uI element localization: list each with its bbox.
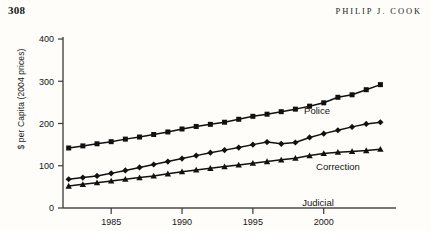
x-tick-label: 1990 bbox=[172, 217, 192, 227]
marker-diamond bbox=[278, 141, 284, 147]
marker-square bbox=[165, 129, 170, 134]
marker-diamond bbox=[122, 167, 128, 173]
marker-diamond bbox=[221, 147, 227, 153]
marker-square bbox=[378, 82, 383, 87]
marker-square bbox=[95, 141, 100, 146]
marker-diamond bbox=[321, 131, 327, 137]
marker-diamond bbox=[165, 158, 171, 164]
x-tick-label: 1995 bbox=[243, 217, 263, 227]
y-tick-label: 300 bbox=[39, 77, 54, 87]
marker-diamond bbox=[306, 134, 312, 140]
series-label-correction: Correction bbox=[316, 161, 360, 172]
x-tick-label: 1985 bbox=[101, 217, 121, 227]
figure-container: $ per Capita (2004 prices) 0100200300400… bbox=[0, 26, 431, 231]
marker-diamond bbox=[377, 119, 383, 125]
marker-square bbox=[250, 114, 255, 119]
marker-diamond bbox=[80, 174, 86, 180]
marker-diamond bbox=[94, 173, 100, 179]
marker-square bbox=[293, 107, 298, 112]
y-tick-label: 200 bbox=[39, 119, 54, 129]
marker-square bbox=[208, 122, 213, 127]
marker-square bbox=[123, 137, 128, 142]
marker-square bbox=[265, 112, 270, 117]
marker-diamond bbox=[363, 121, 369, 127]
book-page: 308 PHILIP J. COOK $ per Capita (2004 pr… bbox=[0, 0, 431, 231]
y-tick-label: 0 bbox=[49, 203, 54, 213]
marker-square bbox=[109, 139, 114, 144]
marker-square bbox=[335, 95, 340, 100]
series-label-police: Police bbox=[304, 105, 330, 116]
marker-diamond bbox=[250, 142, 256, 148]
marker-diamond bbox=[207, 150, 213, 156]
marker-square bbox=[222, 120, 227, 125]
marker-diamond bbox=[151, 161, 157, 167]
marker-diamond bbox=[292, 139, 298, 145]
marker-square bbox=[279, 109, 284, 114]
marker-diamond bbox=[136, 164, 142, 170]
series-label-judicial: Judicial bbox=[302, 197, 334, 208]
marker-diamond bbox=[335, 127, 341, 133]
marker-diamond bbox=[193, 153, 199, 159]
marker-square bbox=[66, 146, 71, 151]
marker-square bbox=[194, 124, 199, 129]
marker-diamond bbox=[264, 139, 270, 145]
marker-diamond bbox=[66, 176, 72, 182]
y-tick-label: 400 bbox=[39, 34, 54, 44]
marker-square bbox=[236, 117, 241, 122]
marker-diamond bbox=[179, 155, 185, 161]
chart-plot: 01002003004001985199019952000PoliceCorre… bbox=[0, 26, 431, 231]
marker-square bbox=[80, 143, 85, 148]
marker-square bbox=[151, 132, 156, 137]
marker-diamond bbox=[236, 144, 242, 150]
running-head: PHILIP J. COOK bbox=[336, 6, 423, 16]
marker-square bbox=[180, 126, 185, 131]
marker-square bbox=[350, 92, 355, 97]
page-folio: 308 bbox=[8, 4, 25, 16]
series-line-police bbox=[69, 85, 381, 148]
line-chart: 01002003004001985199019952000PoliceCorre… bbox=[0, 26, 431, 231]
y-tick-label: 100 bbox=[39, 161, 54, 171]
marker-square bbox=[364, 87, 369, 92]
marker-diamond bbox=[349, 124, 355, 130]
marker-square bbox=[137, 135, 142, 140]
marker-diamond bbox=[108, 170, 114, 176]
x-tick-label: 2000 bbox=[314, 217, 334, 227]
